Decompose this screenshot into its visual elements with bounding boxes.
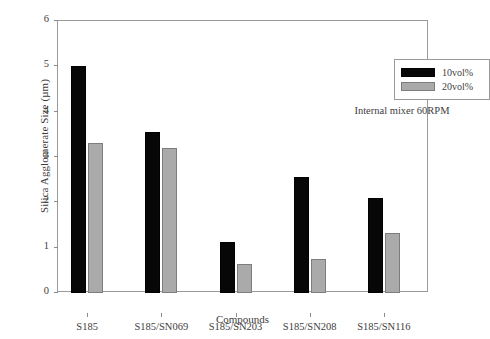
- bar: [237, 264, 252, 293]
- y-tick-label: 2: [19, 194, 49, 205]
- bar: [368, 198, 383, 293]
- y-tick-label: 6: [19, 13, 49, 24]
- legend-item: 20vol%: [401, 80, 483, 93]
- y-tick-mark: [54, 201, 58, 202]
- legend-swatch: [401, 68, 435, 77]
- bar: [294, 177, 309, 293]
- y-tick-label: 5: [19, 58, 49, 69]
- bar: [311, 259, 326, 293]
- legend-swatch: [401, 82, 435, 91]
- bar: [162, 148, 177, 293]
- bar: [385, 233, 400, 293]
- legend-item: 10vol%: [401, 66, 483, 79]
- y-tick-mark: [54, 247, 58, 248]
- bar: [71, 66, 86, 293]
- chart-annotation: Internal mixer 60RPM: [326, 105, 478, 116]
- y-tick-label: 1: [19, 240, 49, 251]
- legend-label: 10vol%: [442, 67, 473, 78]
- chart-legend: 10vol%20vol%: [394, 59, 490, 100]
- y-tick-label: 4: [19, 104, 49, 115]
- plot-area: 0123456 S185S185/SN069S185/SN203S185/SN2…: [57, 20, 428, 292]
- y-tick-mark: [54, 292, 58, 293]
- y-tick-label: 0: [19, 285, 49, 296]
- y-tick-mark: [54, 111, 58, 112]
- y-tick-label: 3: [19, 149, 49, 160]
- bar: [220, 242, 235, 293]
- legend-label: 20vol%: [442, 81, 473, 92]
- y-tick-mark: [54, 20, 58, 21]
- bar: [145, 132, 160, 293]
- bar: [88, 143, 103, 293]
- x-axis-title: Compounds: [57, 313, 428, 325]
- y-tick-mark: [54, 156, 58, 157]
- y-tick-mark: [54, 65, 58, 66]
